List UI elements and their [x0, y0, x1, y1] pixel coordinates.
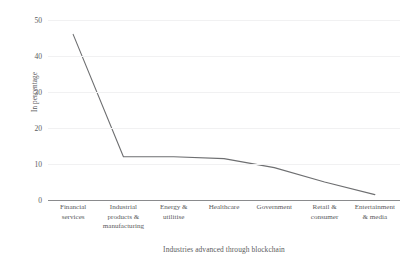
- x-category-label-line: manufacturing: [99, 222, 147, 232]
- x-category-label-line: products &: [99, 213, 147, 223]
- gridline: [48, 56, 400, 57]
- line-chart: In percentage 01020304050 Financialservi…: [0, 0, 408, 266]
- x-category-label-line: Energy &: [150, 203, 198, 213]
- gridline: [48, 20, 400, 21]
- x-category-label-line: Financial: [49, 203, 97, 213]
- gridline: [48, 128, 400, 129]
- x-axis-baseline: [48, 200, 400, 201]
- y-tick-label: 40: [34, 52, 42, 61]
- gridline: [48, 164, 400, 165]
- x-category-label-line: Industrial: [99, 203, 147, 213]
- y-tick-label: 50: [34, 16, 42, 25]
- y-tick-label: 0: [38, 196, 42, 205]
- x-category-label-line: services: [49, 213, 97, 223]
- x-category-label-line: Retail &: [300, 203, 348, 213]
- y-tick-label: 30: [34, 88, 42, 97]
- y-tick-label: 20: [34, 124, 42, 133]
- x-category-label: Industrialproducts &manufacturing: [98, 203, 148, 243]
- x-axis-title: Industries advanced through blockchain: [48, 245, 400, 254]
- x-category-label: Government: [249, 203, 299, 243]
- gridline: [48, 92, 400, 93]
- series-line: [48, 20, 400, 200]
- x-category-label-line: utilitise: [150, 213, 198, 223]
- x-category-label: Energy &utilitise: [149, 203, 199, 243]
- x-category-label: Financialservices: [48, 203, 98, 243]
- x-category-label-line: Healthcare: [200, 203, 248, 213]
- x-category-label: Healthcare: [199, 203, 249, 243]
- x-category-label: Retail &consumer: [299, 203, 349, 243]
- x-category-label-line: Entertainment: [351, 203, 399, 213]
- plot-area: 01020304050: [48, 20, 400, 200]
- x-category-label-line: & media: [351, 213, 399, 223]
- x-axis-category-labels: FinancialservicesIndustrialproducts &man…: [48, 203, 400, 243]
- x-category-label-line: consumer: [300, 213, 348, 223]
- y-tick-label: 10: [34, 160, 42, 169]
- x-category-label: Entertainment& media: [350, 203, 400, 243]
- x-category-label-line: Government: [250, 203, 298, 213]
